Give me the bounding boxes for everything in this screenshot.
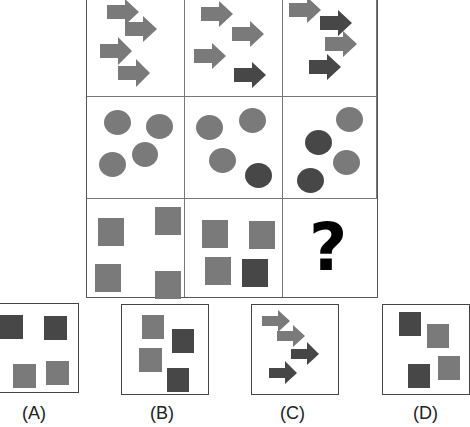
option-d-label[interactable]: (D) — [413, 403, 438, 424]
option-c-label[interactable]: (C) — [280, 403, 305, 424]
square-light — [205, 257, 231, 285]
square-dark — [242, 259, 268, 287]
option-c[interactable] — [251, 304, 339, 395]
circle-light — [333, 150, 360, 175]
square-light — [249, 221, 275, 249]
cell-r3-c2 — [185, 199, 283, 297]
square-light — [202, 220, 228, 248]
cell-r1-c3 — [283, 0, 377, 97]
square-light — [98, 218, 124, 246]
circle-light — [99, 152, 126, 177]
square-dark — [0, 315, 23, 339]
square-light — [13, 364, 36, 388]
option-b-label[interactable]: (B) — [150, 403, 174, 424]
circle-light — [209, 148, 236, 173]
circle-dark — [297, 168, 324, 193]
square-light — [139, 348, 162, 372]
cell-r2-c1 — [87, 97, 185, 199]
square-light — [427, 324, 449, 348]
arrow-group-icon — [252, 305, 338, 394]
circle-light — [146, 114, 173, 139]
square-dark — [167, 368, 189, 392]
circle-light — [239, 108, 266, 133]
option-d[interactable] — [382, 304, 470, 395]
question-mark: ? — [309, 209, 347, 286]
option-a[interactable] — [0, 303, 79, 393]
cell-r1-c1 — [87, 0, 185, 97]
arrow-group-icon — [87, 0, 185, 97]
circle-light — [132, 142, 158, 167]
option-b[interactable] — [121, 304, 209, 395]
square-light — [95, 264, 121, 292]
circle-light — [336, 107, 363, 132]
circle-light — [104, 110, 131, 135]
square-dark — [399, 312, 421, 336]
square-dark — [408, 364, 430, 388]
square-dark — [44, 316, 67, 340]
arrow-group-icon — [283, 0, 377, 97]
square-light — [46, 361, 69, 385]
arrow-group-icon — [185, 0, 283, 97]
square-light — [155, 207, 181, 235]
cell-r1-c2 — [185, 0, 283, 97]
square-light — [438, 356, 460, 380]
cell-r3-c3-missing: ? — [283, 199, 377, 297]
circle-dark — [305, 130, 332, 155]
option-a-label[interactable]: (A) — [22, 403, 46, 424]
cell-r2-c2 — [185, 97, 283, 199]
square-light — [142, 315, 164, 339]
circle-dark — [245, 163, 272, 188]
square-dark — [172, 329, 194, 353]
circle-light — [196, 115, 223, 140]
puzzle-matrix: ? — [86, 0, 378, 298]
square-light — [155, 271, 181, 299]
cell-r2-c3 — [283, 97, 377, 199]
cell-r3-c1 — [87, 199, 185, 297]
